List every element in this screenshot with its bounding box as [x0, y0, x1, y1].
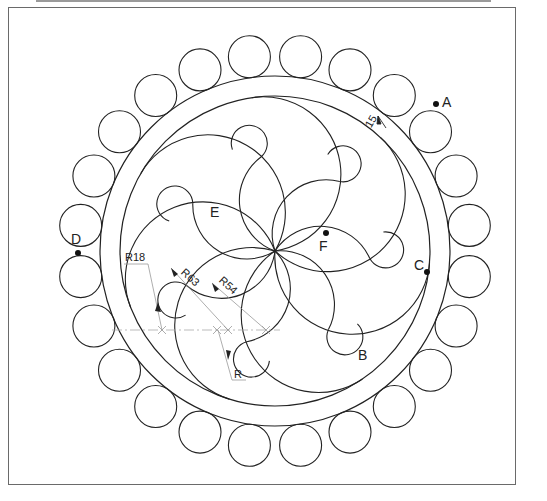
outer-circle	[280, 36, 322, 78]
petal-lobe	[328, 146, 361, 182]
dimension-r18: R18	[125, 252, 145, 263]
point-label-d: D	[71, 232, 81, 246]
outer-circle	[228, 36, 270, 78]
petal-outer-arc	[275, 251, 430, 334]
point-label-f: F	[319, 239, 328, 253]
petal-lobe	[158, 282, 187, 318]
outer-circle	[435, 155, 477, 197]
petal-outer-arc	[141, 135, 286, 251]
petal-outer-arc	[125, 202, 275, 308]
outer-circle	[280, 424, 322, 466]
region-label-e: E	[210, 205, 219, 219]
petal-outer-arc	[275, 137, 405, 271]
point-label-b: B	[358, 348, 367, 362]
outer-circle	[73, 305, 115, 347]
petal-inner-arc	[247, 251, 291, 342]
petal-lobe	[370, 232, 404, 268]
petal-inner-arc	[239, 157, 275, 251]
petal-lobe	[231, 125, 267, 157]
geometry-canvas	[0, 0, 547, 501]
petal-outer-arc	[241, 251, 362, 392]
outer-circle	[60, 256, 102, 298]
outer-circle	[179, 411, 221, 453]
outer-circle	[329, 49, 371, 91]
point-label-a: A	[442, 95, 451, 109]
outer-circle	[329, 411, 371, 453]
outer-circle	[448, 256, 490, 298]
outer-circle	[435, 305, 477, 347]
outer-circle	[179, 49, 221, 91]
outer-circle	[228, 424, 270, 466]
outer-circle	[73, 155, 115, 197]
pinwheel-petals	[125, 97, 429, 399]
outer-circle	[448, 204, 490, 246]
dimension-r: R	[234, 369, 242, 380]
petal-outer-arc	[252, 97, 341, 251]
point-label-c: C	[414, 258, 424, 272]
petal-inner-arc	[193, 203, 275, 259]
